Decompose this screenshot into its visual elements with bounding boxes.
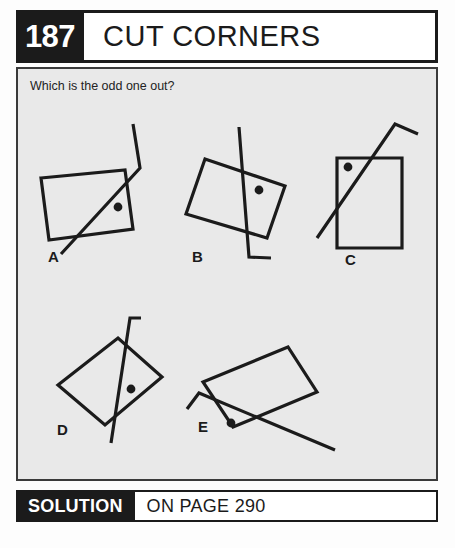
solution-page-box: ON PAGE 290 (135, 490, 438, 522)
puzzle-option-c[interactable]: C (317, 124, 418, 268)
puzzle-option-a[interactable]: A (41, 124, 140, 265)
option-dot (127, 385, 136, 394)
option-label-e: E (198, 418, 208, 435)
puzzle-title-box: CUT CORNERS (84, 10, 438, 63)
option-rectangle (203, 347, 317, 427)
puzzle-page: 187 CUT CORNERS Which is the odd one out… (0, 0, 455, 548)
puzzle-option-b[interactable]: B (186, 127, 285, 265)
option-label-a: A (48, 248, 59, 265)
page-title: CUT CORNERS (103, 20, 321, 53)
puzzle-option-e[interactable]: E (187, 347, 335, 450)
puzzle-option-d[interactable]: D (57, 318, 162, 443)
option-label-b: B (192, 248, 203, 265)
option-bent-line (111, 318, 141, 443)
solution-page-reference: ON PAGE 290 (147, 496, 266, 517)
option-label-c: C (345, 251, 356, 268)
option-rectangle (186, 159, 285, 238)
puzzle-number: 187 (16, 10, 84, 63)
solution-label: SOLUTION (16, 490, 135, 522)
option-label-d: D (57, 421, 68, 438)
option-dot (114, 203, 123, 212)
option-dot (227, 419, 236, 428)
page-header: 187 CUT CORNERS (16, 10, 438, 63)
option-bent-line (187, 393, 335, 450)
puzzle-panel: Which is the odd one out? ABCDE (16, 67, 438, 481)
option-rectangle (337, 158, 402, 248)
solution-bar: SOLUTION ON PAGE 290 (16, 490, 438, 522)
option-dot (344, 163, 353, 172)
option-rectangle (58, 338, 162, 425)
option-dot (255, 186, 264, 195)
puzzle-figure: ABCDE (18, 69, 436, 479)
